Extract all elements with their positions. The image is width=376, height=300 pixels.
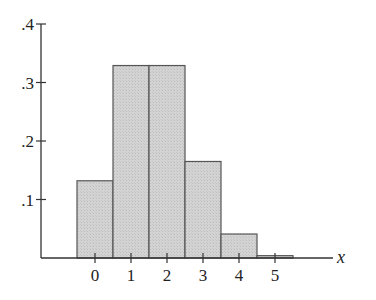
bar-3 xyxy=(185,161,221,258)
x-tick-label: 1 xyxy=(127,266,136,285)
bar-2 xyxy=(149,66,185,258)
probability-histogram: .1.2.3.4 012345 x xyxy=(0,0,376,300)
y-axis-ticks: .1.2.3.4 xyxy=(21,15,46,210)
y-tick-label: .1 xyxy=(21,191,34,210)
x-tick-label: 2 xyxy=(163,266,172,285)
x-tick-label: 3 xyxy=(199,266,208,285)
y-tick-label: .4 xyxy=(21,15,34,34)
y-tick-label: .3 xyxy=(21,74,34,93)
bar-1 xyxy=(113,66,149,258)
x-tick-label: 0 xyxy=(91,266,100,285)
x-tick-label: 4 xyxy=(235,266,244,285)
x-axis-label: x xyxy=(336,247,345,267)
y-tick-label: .2 xyxy=(21,132,34,151)
histogram-bars xyxy=(77,66,293,258)
bar-0 xyxy=(77,181,113,258)
x-tick-label: 5 xyxy=(271,266,280,285)
